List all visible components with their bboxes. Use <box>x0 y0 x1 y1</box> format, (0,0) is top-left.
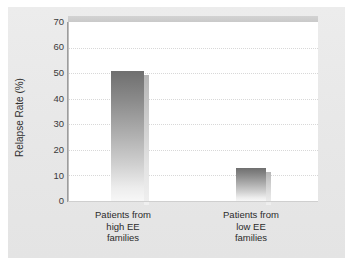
category-label-high-ee-line2: high EE <box>68 221 178 233</box>
y-tick-40: 40 <box>40 94 64 104</box>
gridline-50 <box>69 73 318 74</box>
y-tick-30: 30 <box>40 119 64 129</box>
gridline-40 <box>69 99 318 100</box>
bar-low-ee[interactable] <box>236 168 266 201</box>
y-tick-10: 10 <box>40 171 64 181</box>
category-label-high-ee: Patients from high EE families <box>68 209 178 244</box>
y-axis-title: Relapse Rate (%) <box>14 68 25 168</box>
gridline-60 <box>69 48 318 49</box>
y-axis-tick-labels: 70 60 50 40 30 20 10 0 <box>36 0 64 270</box>
category-label-low-ee: Patients from low EE families <box>196 209 306 244</box>
x-axis-baseline <box>68 201 318 202</box>
chart-figure: 70 60 50 40 30 20 10 0 Relapse Rate (%) … <box>0 0 355 270</box>
bar-high-ee-body <box>111 71 144 201</box>
category-label-low-ee-line2: low EE <box>196 221 306 233</box>
category-label-high-ee-line1: Patients from <box>68 209 178 221</box>
category-label-low-ee-line1: Patients from <box>196 209 306 221</box>
category-label-low-ee-line3: families <box>196 232 306 244</box>
y-tick-50: 50 <box>40 68 64 78</box>
gridline-30 <box>69 124 318 125</box>
bar-high-ee[interactable] <box>111 71 144 201</box>
bar-high-ee-shadow <box>144 75 149 205</box>
bar-low-ee-body <box>236 168 266 201</box>
y-tick-20: 20 <box>40 145 64 155</box>
gridline-10 <box>69 175 318 176</box>
plot-area <box>68 22 318 201</box>
bar-low-ee-shadow <box>266 172 271 205</box>
y-tick-60: 60 <box>40 42 64 52</box>
y-tick-70: 70 <box>40 17 64 27</box>
category-label-high-ee-line3: families <box>68 232 178 244</box>
y-tick-0: 0 <box>40 196 64 206</box>
gridline-20 <box>69 150 318 151</box>
